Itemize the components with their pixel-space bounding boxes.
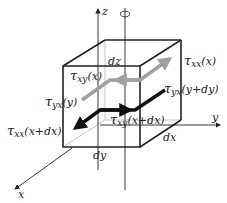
- z-axis-label: z: [101, 5, 108, 18]
- stress-label-tyx-y: τyx(y): [45, 94, 77, 110]
- stress-label-tyx-ydy: τyx(y+dy): [164, 81, 219, 97]
- y-axis-label: y: [211, 111, 219, 124]
- stress-label-txy-x: τxy(x): [70, 68, 102, 84]
- dx-label: dx: [163, 131, 177, 144]
- x-axis-label: x: [18, 188, 25, 201]
- stress-label-txx-x: τxx(x): [184, 53, 216, 69]
- stress-label-txy-xdx: τxy(x+dx): [110, 112, 165, 128]
- dz-label: dz: [108, 55, 121, 68]
- stress-element-diagram: z y x dz dx dy τxx(x) τxy(x) τyx(y) τyx(…: [0, 0, 227, 203]
- dy-label: dy: [93, 149, 107, 162]
- stress-label-txx-xdx: τxx(x+dx): [7, 123, 62, 139]
- x-axis: [15, 148, 72, 189]
